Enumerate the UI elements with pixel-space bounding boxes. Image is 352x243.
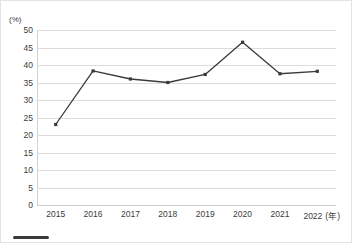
x-tick-label: 2016: [84, 209, 103, 219]
data-point-marker: [91, 69, 94, 72]
x-axis-tick-labels: 20152016201720182019202020212022(年): [37, 209, 336, 225]
data-point-marker: [166, 81, 169, 84]
y-tick-label: 40: [7, 60, 33, 70]
data-point-marker: [54, 123, 57, 126]
data-point-marker: [241, 41, 244, 44]
x-tick-label: 2015: [46, 209, 65, 219]
x-axis-unit-label: (年): [325, 211, 340, 221]
y-tick-label: 25: [7, 113, 33, 123]
legend: [13, 232, 49, 242]
legend-line-swatch: [13, 236, 49, 239]
line-series: [37, 30, 336, 205]
y-tick-label: 35: [7, 78, 33, 88]
x-tick-label: 2021: [270, 209, 289, 219]
gridline: [37, 205, 336, 206]
y-tick-label: 45: [7, 43, 33, 53]
x-tick-label: 2022(年): [303, 209, 340, 221]
y-axis-tick-labels: 50454035302520151050: [1, 30, 33, 205]
data-point-marker: [204, 73, 207, 76]
y-tick-label: 5: [7, 183, 33, 193]
data-point-marker: [278, 72, 281, 75]
data-point-marker: [129, 77, 132, 80]
data-point-marker: [316, 70, 319, 73]
y-axis-unit-label: (%): [9, 15, 21, 24]
x-tick-label: 2017: [121, 209, 140, 219]
y-tick-label: 15: [7, 148, 33, 158]
y-tick-label: 10: [7, 165, 33, 175]
x-tick-label: 2019: [196, 209, 215, 219]
plot-area: [37, 30, 336, 205]
series-line: [56, 42, 318, 124]
y-tick-label: 20: [7, 130, 33, 140]
chart-figure: (%) 50454035302520151050 201520162017201…: [0, 0, 352, 243]
y-tick-label: 50: [7, 25, 33, 35]
y-tick-label: 30: [7, 95, 33, 105]
x-tick-label: 2020: [233, 209, 252, 219]
x-tick-label: 2018: [158, 209, 177, 219]
y-tick-label: 0: [7, 200, 33, 210]
